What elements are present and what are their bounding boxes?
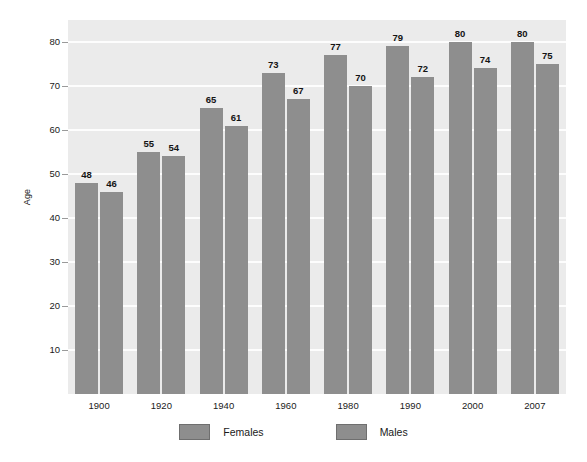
bar: [100, 192, 123, 394]
bar-value-label: 75: [530, 51, 565, 61]
x-axis-tick-label: 1900: [68, 400, 130, 411]
x-axis-tick-label: 1940: [193, 400, 255, 411]
gridline: [68, 41, 566, 43]
bar-value-label: 80: [443, 29, 478, 39]
x-axis-tick-label: 1920: [130, 400, 192, 411]
bar-value-label: 80: [505, 29, 540, 39]
bar-value-label: 70: [343, 73, 378, 83]
x-axis-tick-label: 2000: [442, 400, 504, 411]
bar-value-label: 74: [468, 55, 503, 65]
bar: [287, 99, 310, 394]
legend-swatch-icon: [179, 424, 210, 440]
y-axis-tick-label: 60: [20, 125, 60, 135]
bar-value-label: 61: [219, 113, 254, 123]
x-axis-tick-label: 1990: [379, 400, 441, 411]
bar-value-label: 54: [156, 143, 191, 153]
bar-chart: Age 1020304050607080 4846555465617367777…: [0, 0, 587, 462]
bar: [474, 68, 497, 394]
bar: [200, 108, 223, 394]
bar-value-label: 46: [94, 179, 129, 189]
y-axis-tick-label: 30: [20, 257, 60, 267]
y-axis-tick-label: 10: [20, 345, 60, 355]
bar: [225, 126, 248, 394]
bar-value-label: 73: [256, 60, 291, 70]
x-axis-tick-label: 1960: [255, 400, 317, 411]
y-axis-tick-label: 80: [20, 37, 60, 47]
bar: [137, 152, 160, 394]
bar-value-label: 65: [194, 95, 229, 105]
legend-item[interactable]: Females: [179, 424, 263, 440]
bar: [349, 86, 372, 394]
bar-value-label: 72: [405, 64, 440, 74]
x-axis-tick-label: 2007: [504, 400, 566, 411]
bar: [411, 77, 434, 394]
y-axis-tick-label: 40: [20, 213, 60, 223]
bar: [511, 42, 534, 394]
legend-label: Males: [380, 426, 408, 438]
legend-item[interactable]: Males: [336, 424, 408, 440]
x-axis-tick-label: 1980: [317, 400, 379, 411]
chart-legend: FemalesMales: [0, 424, 587, 440]
plot-area: [68, 20, 566, 394]
bar: [262, 73, 285, 394]
y-axis-tick-label: 70: [20, 81, 60, 91]
bar: [75, 183, 98, 394]
legend-swatch-icon: [336, 424, 367, 440]
bar: [162, 156, 185, 394]
y-axis-tick-label: 50: [20, 169, 60, 179]
bar: [324, 55, 347, 394]
bar-value-label: 77: [318, 42, 353, 52]
bar: [536, 64, 559, 394]
y-axis-tick-label: 20: [20, 301, 60, 311]
bar-value-label: 67: [281, 86, 316, 96]
bar-value-label: 79: [380, 33, 415, 43]
legend-label: Females: [223, 426, 263, 438]
bar: [386, 46, 409, 394]
bar: [449, 42, 472, 394]
